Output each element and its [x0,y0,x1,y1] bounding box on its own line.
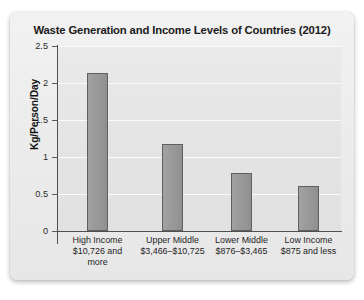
y-tick-label-2.5: 2.5 [35,42,48,51]
chart-figure: Waste Generation and Income Levels of Co… [0,0,364,300]
y-tick-mark-1 [52,157,57,158]
bar-upper-middle [162,144,183,231]
x-axis-line [57,231,342,232]
y-axis-line [57,45,58,244]
y-tick-mark-0 [52,231,57,232]
gridline-2.5 [57,46,341,47]
plot-area [57,46,341,231]
x-category-label-low-income: Low Income $875 and less [261,235,355,257]
y-tick-label-0.5: 0.5 [35,190,48,199]
y-tick-mark-1.5 [52,120,57,121]
bar-lower-middle [231,173,252,232]
y-tick-label-0: 0 [43,227,48,236]
chart-card: Waste Generation and Income Levels of Co… [10,12,354,280]
y-axis-title: Kg/Person/Day [29,65,40,165]
bar-low-income [298,186,319,231]
bar-high-income [87,73,108,231]
chart-title: Waste Generation and Income Levels of Co… [10,24,354,36]
y-tick-mark-0.5 [52,194,57,195]
y-tick-label-2: 2 [43,79,48,88]
y-tick-mark-2 [52,83,57,84]
y-tick-label-1: 1 [43,153,48,162]
y-tick-mark-2.5 [52,46,57,47]
